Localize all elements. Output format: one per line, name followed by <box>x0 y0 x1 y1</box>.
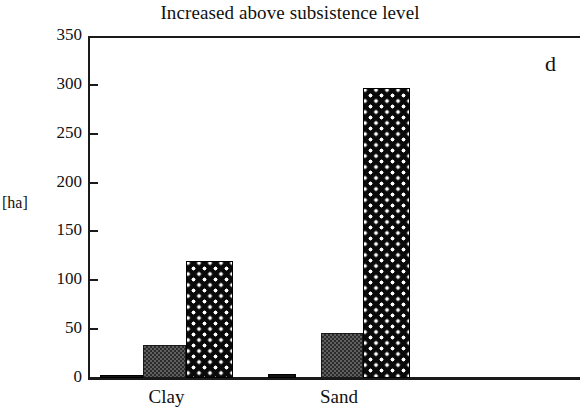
y-tick-label: 350 <box>8 25 82 45</box>
bar-clay-series-b <box>143 345 186 378</box>
x-axis-label-sand: Sand <box>279 386 399 408</box>
y-tick-label: 300 <box>8 74 82 94</box>
plot-area <box>88 36 580 378</box>
y-tick-label: 50 <box>8 318 82 338</box>
x-axis-label-clay: Clay <box>107 386 227 408</box>
bar-clay-series-c <box>186 261 233 378</box>
y-axis-unit-label: [ha] <box>2 194 28 212</box>
y-tick-label: 200 <box>8 172 82 192</box>
chart-figure: Increased above subsistence level d [ha]… <box>0 0 580 416</box>
bar-clay-series-a <box>100 375 143 378</box>
bar-sand-series-b <box>321 333 363 378</box>
y-tick-label: 150 <box>8 220 82 240</box>
y-tick-label: 250 <box>8 123 82 143</box>
chart-title: Increased above subsistence level <box>0 2 580 24</box>
y-tick-label: 0 <box>8 367 82 387</box>
y-tick-label: 100 <box>8 269 82 289</box>
bar-sand-series-a <box>268 374 296 378</box>
bar-sand-series-c <box>363 88 410 378</box>
